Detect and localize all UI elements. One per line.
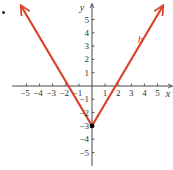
y-tick-label: 3 — [85, 41, 90, 51]
y-tick-label: −1 — [79, 94, 89, 104]
y-axis-label: y — [79, 2, 85, 13]
y-tick-label: −3 — [79, 121, 89, 131]
x-tick-label: −5 — [20, 88, 30, 98]
x-axis-label: x — [165, 88, 171, 99]
x-tick-label: −3 — [46, 88, 56, 98]
x-tick-label: −4 — [33, 88, 43, 98]
x-tick-label: 3 — [129, 88, 134, 98]
x-tick-label: 4 — [142, 88, 147, 98]
y-tick-label: 5 — [85, 15, 90, 25]
y-tick-label: −4 — [79, 134, 89, 144]
curve-label: h — [138, 33, 144, 45]
x-tick-label: −2 — [60, 88, 70, 98]
y-tick-label: −5 — [79, 148, 89, 158]
vertex-point — [90, 124, 95, 129]
y-tick-label: 4 — [85, 28, 90, 38]
x-tick-label: 5 — [155, 88, 160, 98]
axes — [12, 4, 172, 166]
x-tick-label: 2 — [116, 88, 121, 98]
y-tick-label: −2 — [79, 108, 89, 118]
y-tick-label: 1 — [85, 68, 90, 78]
x-tick-label: 1 — [103, 88, 108, 98]
graph: −5−4−3−2−112345−5−4−3−2−112345xyh — [0, 0, 173, 170]
labels: −5−4−3−2−112345−5−4−3−2−112345xyh — [20, 2, 171, 158]
y-tick-label: 2 — [85, 54, 90, 64]
